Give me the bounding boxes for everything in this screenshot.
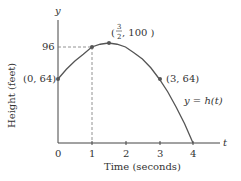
height-vs-time-chart: y t 96 0 1 2 3 4 Time (seconds) Height (… xyxy=(0,0,241,181)
point-three-label: (3, 64) xyxy=(166,73,199,84)
y-tick-96: 96 xyxy=(42,41,55,52)
point-start-label: (0, 64) xyxy=(23,73,56,84)
point-three xyxy=(158,77,162,81)
point-vertex-label: ( 3 2 , 100 ) xyxy=(111,23,155,41)
point-start xyxy=(56,77,60,81)
x-tick-0: 0 xyxy=(55,148,61,159)
point-t1 xyxy=(90,45,94,49)
y-axis-title: Height (feet) xyxy=(6,63,17,128)
svg-text:, 100 ): , 100 ) xyxy=(122,27,155,38)
t-axis-symbol: t xyxy=(223,137,228,148)
y-axis-symbol: y xyxy=(54,5,61,16)
svg-text:2: 2 xyxy=(117,33,121,41)
x-axis-title: Time (seconds) xyxy=(104,161,181,172)
svg-text:(: ( xyxy=(111,27,115,38)
point-vertex xyxy=(107,41,111,45)
x-tick-3: 3 xyxy=(157,148,163,159)
x-tick-4: 4 xyxy=(190,148,196,159)
x-tick-1: 1 xyxy=(89,148,95,159)
x-tick-2: 2 xyxy=(123,148,129,159)
svg-text:3: 3 xyxy=(117,23,121,31)
curve-h-of-t xyxy=(58,36,193,143)
curve-label: y = h(t) xyxy=(183,95,223,106)
curve-h-of-t-line xyxy=(58,43,193,143)
